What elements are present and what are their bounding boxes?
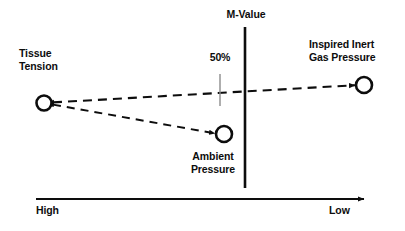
node-marker-ambient-pressure xyxy=(216,126,232,142)
axis-label-high-text: High xyxy=(36,204,59,217)
label-tissue-tension-line2: Tension xyxy=(19,60,58,73)
label-tissue-tension-line1: Tissue xyxy=(19,47,58,60)
label-ambient-pressure-line1: Ambient xyxy=(182,150,244,163)
midpoint-percent-label: 50% xyxy=(200,51,240,64)
label-tissue-tension: Tissue Tension xyxy=(19,47,58,73)
axis-label-low: Low xyxy=(329,204,350,217)
axis-label-high: High xyxy=(36,204,59,217)
label-inspired-inert-gas-pressure: Inspired Inert Gas Pressure xyxy=(309,38,376,64)
m-value-diagram: M-Value 50% Tissue Tension Inspired Iner… xyxy=(0,0,405,231)
connector-tissue-to-ambient xyxy=(53,105,215,134)
m-value-label: M-Value xyxy=(222,8,270,21)
label-inspired-gas-line1: Inspired Inert xyxy=(309,38,376,51)
m-value-label-text: M-Value xyxy=(222,8,270,21)
node-marker-tissue-tension xyxy=(37,96,52,111)
diagram-canvas xyxy=(0,0,405,231)
label-inspired-gas-line2: Gas Pressure xyxy=(309,51,376,64)
connector-tissue-to-inspired xyxy=(53,85,355,102)
axis-label-low-text: Low xyxy=(329,204,350,217)
midpoint-percent-text: 50% xyxy=(200,51,240,64)
node-marker-inspired-gas xyxy=(356,77,372,93)
label-ambient-pressure: Ambient Pressure xyxy=(182,150,244,176)
label-ambient-pressure-line2: Pressure xyxy=(182,163,244,176)
